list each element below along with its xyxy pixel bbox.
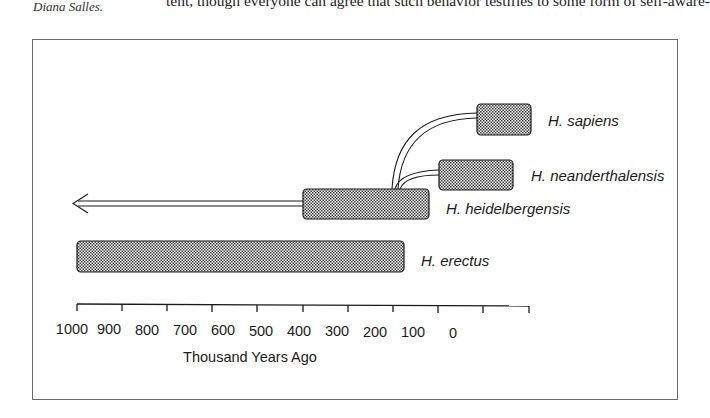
- arrow-left-icon: [73, 194, 303, 213]
- tick-label: 1000: [56, 321, 88, 337]
- label-h-erectus: H. erectus: [421, 252, 490, 269]
- tick-label: 700: [173, 322, 197, 338]
- bar-h-sapiens: [477, 104, 531, 135]
- tick-label: 900: [97, 321, 121, 337]
- tick-label: 400: [287, 323, 311, 339]
- x-axis: [77, 304, 529, 313]
- tick-label: 100: [401, 324, 425, 340]
- tick-label: 300: [325, 323, 349, 339]
- label-h-neanderthalensis: H. neanderthalensis: [531, 167, 665, 184]
- x-axis-tick-labels: 1000 900 800 700 600 500 400 300 200 100…: [56, 321, 457, 341]
- tick-label: 800: [135, 322, 159, 338]
- bar-h-heidelbergensis: [303, 189, 429, 219]
- bar-h-neanderthalensis: [439, 160, 513, 190]
- label-h-sapiens: H. sapiens: [548, 112, 619, 129]
- tick-label: 600: [211, 322, 235, 338]
- tick-label: 0: [449, 325, 457, 341]
- branch-neanderthalensis: [395, 170, 439, 189]
- x-axis-title: Thousand Years Ago: [183, 349, 317, 365]
- tick-label: 200: [363, 324, 387, 340]
- tick-label: 500: [249, 323, 273, 339]
- label-h-heidelbergensis: H. heidelbergensis: [446, 200, 571, 217]
- bar-h-erectus: [77, 241, 404, 272]
